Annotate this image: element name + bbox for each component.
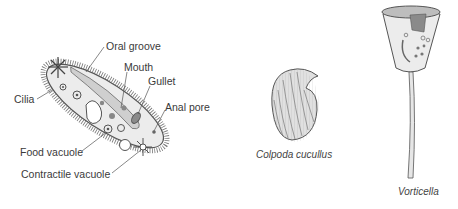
caption-vorticella: Vorticella [398,187,439,197]
label-anal-pore: Anal pore [165,102,210,113]
colpoda-drawing [271,68,319,142]
label-contractile-vacuole: Contractile vacuole [21,169,110,180]
caption-colpoda: Colpoda cucullus [256,150,332,160]
label-mouth: Mouth [124,62,153,73]
label-food-vacuole: Food vacuole [20,147,83,158]
vorticella-drawing [382,6,440,178]
label-cilia: Cilia [14,94,34,105]
label-gullet: Gullet [148,76,175,87]
label-oral-groove: Oral groove [106,41,161,52]
